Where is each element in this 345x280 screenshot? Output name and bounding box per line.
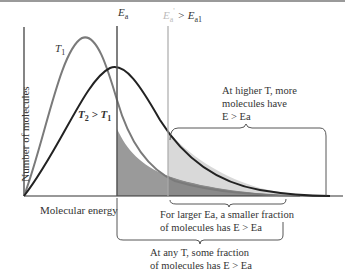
t2-label: T2 > T1: [78, 108, 111, 125]
ea-label: Ea: [118, 6, 128, 23]
x-axis-label: Molecular energy: [40, 204, 118, 216]
ea2-label: Ea' > Ea1: [163, 6, 202, 26]
annotation-larger-ea: For larger Ea, a smaller fraction of mol…: [160, 208, 294, 234]
energy-distribution-diagram: [0, 0, 345, 280]
brace-larger-ea: [170, 199, 286, 207]
t1-label: T1: [55, 42, 65, 59]
annotation-higher-t: At higher T, more molecules have E > Ea: [222, 84, 297, 123]
y-axis-label: Number of molecules: [19, 79, 31, 189]
annotation-any-t: At any T, some fraction of molecules has…: [150, 246, 252, 272]
